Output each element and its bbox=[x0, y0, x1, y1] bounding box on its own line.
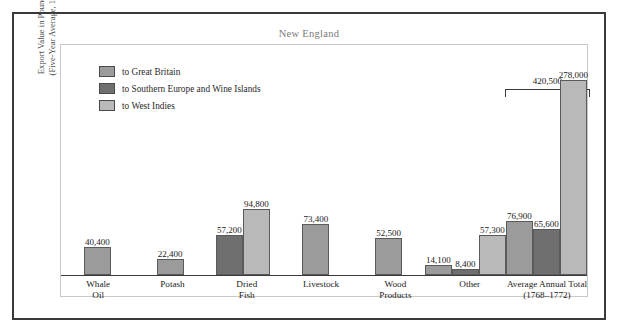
x-axis-label-line: Products bbox=[358, 290, 432, 301]
bar-value-label: 52,500 bbox=[376, 228, 401, 238]
bar-average-annual-total-1768-1772-to-great-britain[interactable]: 76,900 bbox=[506, 221, 533, 275]
chart-frame: New England Export Value in Pounds Sterl… bbox=[12, 12, 606, 320]
bar-value-label: 76,900 bbox=[507, 211, 532, 221]
bar-value-label: 40,400 bbox=[85, 237, 110, 247]
x-axis-label-line: Dried bbox=[210, 279, 284, 290]
x-axis-label-potash: Potash bbox=[135, 276, 209, 296]
bar-group-other: 14,1008,40057,300 bbox=[425, 63, 506, 275]
x-axis-label-line: Livestock bbox=[284, 279, 358, 290]
x-axis-label-line: Other bbox=[433, 279, 507, 290]
chart-title: New England bbox=[14, 28, 604, 39]
bar-other-to-west-indies[interactable]: 57,300 bbox=[479, 235, 506, 275]
bar-dried-fish-to-southern-europe-and-wine-islands[interactable]: 57,200 bbox=[216, 235, 243, 275]
x-axis-label-other: Other bbox=[433, 276, 507, 296]
bar-group-livestock: 73,400 bbox=[279, 63, 352, 275]
bar-wrap: 40,400 bbox=[84, 63, 111, 275]
bar-value-label: 65,600 bbox=[534, 219, 559, 229]
bar-wrap: 52,500 bbox=[375, 63, 402, 275]
x-axis-label-line: Oil bbox=[61, 290, 135, 301]
bar-whale-oil-to-great-britain[interactable]: 40,400 bbox=[84, 247, 111, 275]
bar-other-to-great-britain[interactable]: 14,100 bbox=[425, 265, 452, 275]
plot-area: to Great Britain to Southern Europe and … bbox=[60, 44, 588, 297]
x-axis-label-line: (1768–1772) bbox=[507, 290, 587, 301]
x-axis-labels: WhaleOilPotashDriedFishLivestockWoodProd… bbox=[61, 276, 587, 296]
bar-wrap: 76,90065,600278,000 bbox=[506, 63, 587, 275]
bar-potash-to-great-britain[interactable]: 22,400 bbox=[157, 259, 184, 275]
y-axis-label-line1: Export Value in Pounds Sterling bbox=[36, 0, 47, 104]
x-axis-label-whale-oil: WhaleOil bbox=[61, 276, 135, 296]
bar-wrap: 57,20094,800 bbox=[216, 63, 270, 275]
bar-other-to-southern-europe-and-wine-islands[interactable]: 8,400 bbox=[452, 269, 479, 275]
bar-value-label: 94,800 bbox=[244, 199, 269, 209]
y-axis-label-line2: (Five-Year Average, 1768–1772) bbox=[47, 0, 58, 104]
bar-groups: 40,40022,40057,20094,80073,40052,50014,1… bbox=[61, 63, 587, 275]
bar-wood-products-to-great-britain[interactable]: 52,500 bbox=[375, 238, 402, 275]
x-axis-label-dried-fish: DriedFish bbox=[210, 276, 284, 296]
bar-group-potash: 22,400 bbox=[134, 63, 207, 275]
bar-dried-fish-to-west-indies[interactable]: 94,800 bbox=[243, 209, 270, 275]
bar-average-annual-total-1768-1772-to-southern-europe-and-wine-islands[interactable]: 65,600 bbox=[533, 229, 560, 275]
bar-wrap: 14,1008,40057,300 bbox=[425, 63, 506, 275]
bar-value-label: 14,100 bbox=[426, 255, 451, 265]
bar-value-label: 57,200 bbox=[217, 225, 242, 235]
bar-average-annual-total-1768-1772-to-west-indies[interactable]: 278,000 bbox=[560, 80, 587, 275]
bar-group-wood-products: 52,500 bbox=[352, 63, 425, 275]
bar-livestock-to-great-britain[interactable]: 73,400 bbox=[302, 224, 329, 275]
bar-value-label: 8,400 bbox=[455, 259, 475, 269]
bar-wrap: 73,400 bbox=[302, 63, 329, 275]
bar-value-label: 73,400 bbox=[303, 214, 328, 224]
x-axis-label-line: Whale bbox=[61, 279, 135, 290]
bar-wrap: 22,400 bbox=[157, 63, 184, 275]
bar-group-whale-oil: 40,400 bbox=[61, 63, 134, 275]
x-axis-label-line: Potash bbox=[135, 279, 209, 290]
x-axis-label-wood-products: WoodProducts bbox=[358, 276, 432, 296]
x-axis-label-line: Average Annual Total bbox=[507, 279, 587, 290]
x-axis-label-livestock: Livestock bbox=[284, 276, 358, 296]
bar-group-dried-fish: 57,20094,800 bbox=[207, 63, 280, 275]
bar-value-label: 278,000 bbox=[559, 70, 588, 80]
x-axis-label-average-annual-total-1768-1772: Average Annual Total(1768–1772) bbox=[507, 276, 587, 296]
bar-value-label: 22,400 bbox=[158, 249, 183, 259]
x-axis-label-line: Fish bbox=[210, 290, 284, 301]
bar-group-average-annual-total-1768-1772: 76,90065,600278,000 bbox=[506, 63, 587, 275]
y-axis-label: Export Value in Pounds Sterling (Five-Ye… bbox=[36, 0, 57, 104]
x-axis-label-line: Wood bbox=[358, 279, 432, 290]
bar-value-label: 57,300 bbox=[480, 225, 505, 235]
